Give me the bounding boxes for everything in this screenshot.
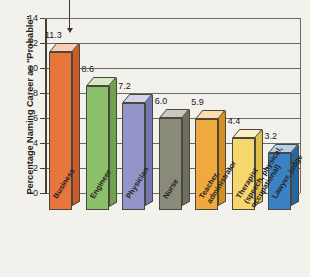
- bar-group: 6.0: [159, 18, 182, 193]
- bar-side-face: [182, 110, 190, 206]
- y-tick-label: 4: [18, 138, 38, 148]
- x-axis-tick-labels: BusinessEngineerPhysicianNurseTeacher,ad…: [45, 196, 310, 277]
- bar-value-label: 7.2: [118, 81, 158, 91]
- bar-value-label: 8.6: [82, 64, 122, 74]
- y-tick-label: 0: [18, 188, 38, 198]
- bar-value-label: 11.3: [45, 30, 85, 40]
- y-tick-label: 12: [18, 38, 38, 48]
- bar-chart: Percentage Naming Career as "Probable" 0…: [0, 0, 310, 277]
- y-tick-label: 10: [18, 63, 38, 73]
- y-axis-tick-labels: 02468101214: [18, 0, 38, 277]
- y-tick-label: 2: [18, 163, 38, 173]
- bar-side-face: [109, 77, 117, 206]
- bar-value-label: 3.2: [264, 131, 304, 141]
- bar-value-label: 4.4: [228, 116, 268, 126]
- y-tick-mark: [40, 193, 47, 194]
- bar-side-face: [72, 43, 80, 206]
- y-tick-label: 6: [18, 113, 38, 123]
- bar-value-label: 6.0: [155, 96, 195, 106]
- y-tick-label: 8: [18, 88, 38, 98]
- y-tick-label: 14: [18, 13, 38, 23]
- bar-side-face: [145, 95, 153, 206]
- bar-value-label: 5.9: [191, 97, 231, 107]
